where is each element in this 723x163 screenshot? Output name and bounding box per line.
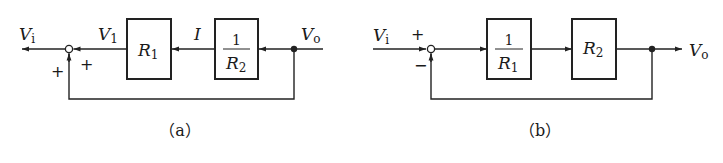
pickoff-point-a xyxy=(291,46,297,52)
pickoff-point-b xyxy=(649,46,655,52)
summing-junction-b xyxy=(427,45,434,52)
feedback-path-b xyxy=(431,49,652,99)
block-diagrams: R1 1 R2 Vi V1 I Vo + + （a） 1 R1 R2 Vi xyxy=(0,0,723,163)
vo-label-a: Vo xyxy=(301,24,321,46)
sum-sign-left-a: + xyxy=(51,62,64,81)
diagram-a: R1 1 R2 Vi V1 I Vo + + （a） xyxy=(19,19,323,140)
caption-b: （b） xyxy=(519,121,561,140)
sum-sign-top-b: + xyxy=(411,25,424,44)
inverse-R2-numerator: 1 xyxy=(232,32,241,48)
sum-sign-bottom-b: − xyxy=(414,56,427,75)
feedback-path-a xyxy=(69,49,294,99)
caption-a: （a） xyxy=(159,121,201,140)
vi-label-a: Vi xyxy=(19,24,35,46)
vi-label-b: Vi xyxy=(373,25,389,47)
summing-junction-a xyxy=(65,45,72,52)
inverse-R1-numerator: 1 xyxy=(505,32,514,48)
diagram-b: 1 R1 R2 Vi Vo + − （b） xyxy=(373,19,709,140)
current-label: I xyxy=(193,24,201,44)
sum-sign-right-a: + xyxy=(80,55,93,74)
vo-label-b: Vo xyxy=(689,40,709,62)
v1-label: V1 xyxy=(98,24,118,46)
